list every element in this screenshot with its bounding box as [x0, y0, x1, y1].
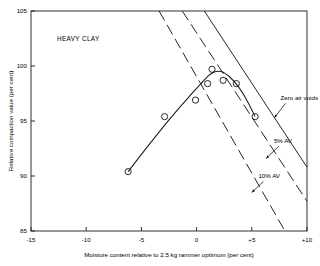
x-tick-label: +5 — [248, 236, 256, 243]
x-tick-label: -15 — [27, 236, 37, 243]
y-tick-label: 90 — [20, 172, 27, 179]
y-axis-title: Relative compaction value (per cent) — [7, 71, 14, 171]
y-tick-label: 95 — [20, 117, 27, 124]
x-tick-label: -5 — [139, 236, 145, 243]
y-tick-label: 85 — [20, 227, 27, 234]
chart-figure: -15-10-50+5+10 859095100105 Zero air voi… — [0, 0, 320, 266]
x-axis-title: Moisture content relative to 2.5 kg ramm… — [84, 251, 254, 258]
x-tick-label: -10 — [82, 236, 92, 243]
y-tick-label: 105 — [17, 7, 28, 14]
panel-title: HEAVY CLAY — [57, 35, 100, 42]
annotation-label-ten-percent-av: 10% AV — [258, 172, 280, 179]
x-tick-label: +10 — [302, 236, 313, 243]
annotation-label-zero-air-voids: Zero air voids — [281, 94, 318, 101]
compaction-chart: -15-10-50+5+10 859095100105 Zero air voi… — [0, 0, 320, 266]
annotation-label-five-percent-av: 5% AV — [274, 137, 293, 144]
x-tick-label: 0 — [195, 236, 199, 243]
figure-background — [0, 0, 320, 266]
y-tick-label: 100 — [17, 62, 28, 69]
